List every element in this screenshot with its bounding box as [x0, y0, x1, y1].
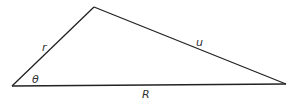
side-r [12, 7, 94, 86]
side-label-R: R [142, 88, 150, 101]
angle-label-theta: θ [32, 73, 39, 86]
side-u [94, 7, 286, 84]
triangle-diagram: θ r u R [0, 0, 303, 104]
triangle-svg: θ r u R [0, 0, 303, 104]
side-label-u: u [196, 36, 203, 49]
side-R [12, 84, 286, 86]
